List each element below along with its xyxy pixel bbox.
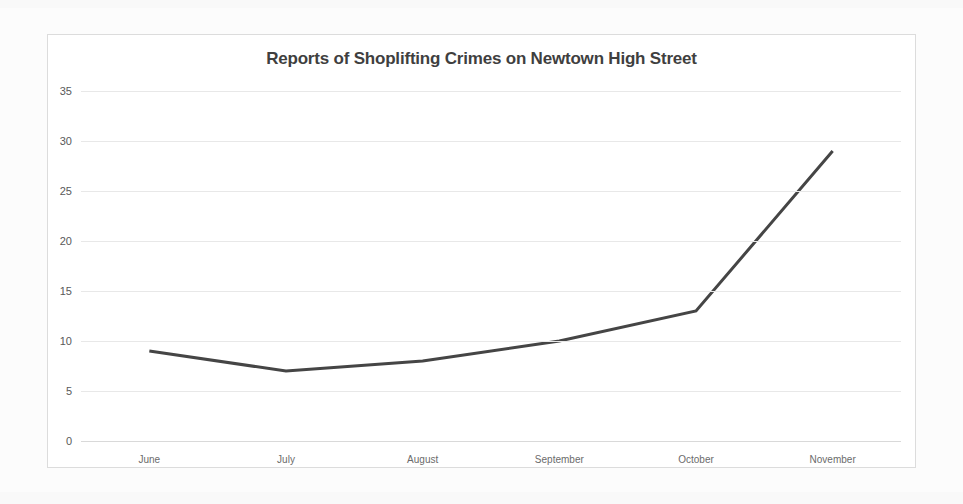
line-series-shoplifting-reports bbox=[81, 91, 901, 441]
scan-artifact-bottom bbox=[0, 492, 963, 504]
x-axis-tick-label: July bbox=[277, 454, 295, 465]
plot-area: 05101520253035JuneJulyAugustSeptemberOct… bbox=[81, 91, 901, 441]
y-axis-tick-label: 15 bbox=[60, 285, 72, 297]
x-axis-tick-label: October bbox=[678, 454, 714, 465]
gridline-y-0 bbox=[81, 441, 901, 442]
gridline-y-30 bbox=[81, 141, 901, 142]
x-axis-tick-label: August bbox=[407, 454, 438, 465]
y-axis-tick-label: 0 bbox=[66, 435, 72, 447]
series-polyline bbox=[149, 151, 832, 371]
y-axis-tick-label: 20 bbox=[60, 235, 72, 247]
document-page: Reports of Shoplifting Crimes on Newtown… bbox=[0, 0, 963, 504]
gridline-y-10 bbox=[81, 341, 901, 342]
y-axis-tick-label: 25 bbox=[60, 185, 72, 197]
y-axis-tick-label: 35 bbox=[60, 85, 72, 97]
gridline-y-25 bbox=[81, 191, 901, 192]
y-axis-tick-label: 10 bbox=[60, 335, 72, 347]
gridline-y-15 bbox=[81, 291, 901, 292]
gridline-y-35 bbox=[81, 91, 901, 92]
gridline-y-5 bbox=[81, 391, 901, 392]
x-axis-tick-label: September bbox=[535, 454, 584, 465]
chart-container: Reports of Shoplifting Crimes on Newtown… bbox=[47, 34, 916, 468]
scan-artifact-top bbox=[0, 0, 963, 8]
chart-title: Reports of Shoplifting Crimes on Newtown… bbox=[48, 49, 915, 69]
gridline-y-20 bbox=[81, 241, 901, 242]
y-axis-tick-label: 5 bbox=[66, 385, 72, 397]
x-axis-tick-label: November bbox=[810, 454, 856, 465]
x-axis-tick-label: June bbox=[138, 454, 160, 465]
y-axis-tick-label: 30 bbox=[60, 135, 72, 147]
